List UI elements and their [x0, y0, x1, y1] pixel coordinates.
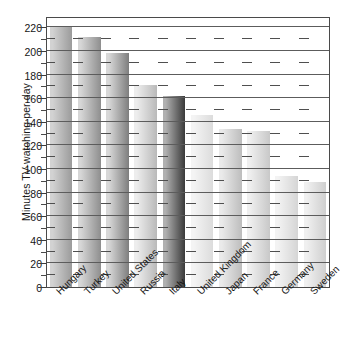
- y-tick-label: 120: [8, 141, 42, 151]
- gridline: [47, 121, 329, 122]
- y-axis-major-tick: [38, 216, 46, 217]
- minor-tick: [299, 62, 309, 63]
- minor-tick: [129, 227, 139, 228]
- minor-tick: [270, 251, 280, 252]
- minor-tick: [270, 85, 280, 86]
- minor-tick: [186, 85, 196, 86]
- minor-tick: [242, 38, 252, 39]
- bar-germany: [275, 176, 298, 287]
- minor-tick: [129, 180, 139, 181]
- y-axis-major-tick: [38, 122, 46, 123]
- minor-tick: [158, 85, 168, 86]
- minor-tick: [101, 133, 111, 134]
- minor-tick: [129, 62, 139, 63]
- y-tick-label: 60: [8, 212, 42, 222]
- minor-tick: [186, 156, 196, 157]
- minor-tick: [158, 227, 168, 228]
- minor-tick: [186, 109, 196, 110]
- minor-tick: [270, 227, 280, 228]
- minor-tick: [73, 109, 83, 110]
- minor-tick: [73, 203, 83, 204]
- y-axis-major-tick: [38, 287, 46, 288]
- minor-tick: [186, 133, 196, 134]
- y-axis-major-tick: [38, 169, 46, 170]
- minor-tick: [101, 85, 111, 86]
- minor-tick: [299, 38, 309, 39]
- minor-tick: [299, 133, 309, 134]
- minor-tick: [299, 180, 309, 181]
- y-tick-label: 40: [8, 236, 42, 246]
- minor-tick: [47, 156, 55, 157]
- minor-tick: [129, 251, 139, 252]
- minor-tick: [270, 133, 280, 134]
- gridline: [47, 97, 329, 98]
- minor-tick: [270, 156, 280, 157]
- minor-tick: [242, 203, 252, 204]
- minor-tick: [270, 203, 280, 204]
- y-tick-label: 0: [8, 283, 42, 293]
- y-axis-major-tick: [38, 193, 46, 194]
- y-axis-tick-labels: 020406080100120140160180200220: [2, 17, 42, 288]
- y-tick-label: 200: [8, 47, 42, 57]
- minor-tick: [214, 133, 224, 134]
- minor-tick: [214, 251, 224, 252]
- gridline: [47, 239, 329, 240]
- minor-tick: [270, 38, 280, 39]
- y-tick-label: 180: [8, 71, 42, 81]
- y-axis-major-tick: [38, 51, 46, 52]
- minor-tick: [214, 38, 224, 39]
- minor-tick: [101, 251, 111, 252]
- minor-tick: [242, 156, 252, 157]
- minor-tick: [299, 227, 309, 228]
- gridline: [47, 192, 329, 193]
- minor-tick: [186, 274, 196, 275]
- minor-tick: [129, 38, 139, 39]
- minor-tick: [158, 180, 168, 181]
- y-axis-major-tick: [38, 98, 46, 99]
- minor-tick: [73, 156, 83, 157]
- minor-tick: [186, 62, 196, 63]
- minor-tick: [73, 227, 83, 228]
- minor-tick: [158, 109, 168, 110]
- minor-tick: [73, 85, 83, 86]
- y-tick-label: 100: [8, 165, 42, 175]
- minor-tick: [186, 251, 196, 252]
- minor-tick: [214, 156, 224, 157]
- minor-tick: [299, 156, 309, 157]
- minor-tick: [73, 62, 83, 63]
- minor-tick: [214, 62, 224, 63]
- minor-tick: [270, 109, 280, 110]
- minor-tick: [47, 109, 55, 110]
- minor-tick: [47, 85, 55, 86]
- minor-tick: [129, 203, 139, 204]
- minor-tick: [101, 203, 111, 204]
- minor-tick: [158, 133, 168, 134]
- y-axis-major-tick: [38, 27, 46, 28]
- minor-tick: [47, 38, 55, 39]
- y-tick-label: 140: [8, 118, 42, 128]
- y-tick-label: 160: [8, 94, 42, 104]
- minor-tick: [73, 251, 83, 252]
- minor-tick: [242, 180, 252, 181]
- minor-tick: [214, 227, 224, 228]
- minor-tick: [214, 180, 224, 181]
- minor-tick: [47, 180, 55, 181]
- y-axis-major-tick: [38, 240, 46, 241]
- minor-tick: [47, 251, 55, 252]
- y-tick-label: 80: [8, 189, 42, 199]
- minor-tick: [129, 109, 139, 110]
- x-axis-tick-labels: HungaryTurkeyUnited StatesRussiaItalyUni…: [46, 289, 330, 349]
- minor-tick: [73, 133, 83, 134]
- minor-tick: [158, 203, 168, 204]
- minor-tick: [101, 227, 111, 228]
- plot-area: [46, 17, 330, 288]
- y-axis-major-tick: [38, 263, 46, 264]
- minor-tick: [73, 180, 83, 181]
- gridline: [47, 26, 329, 27]
- minor-tick: [242, 109, 252, 110]
- minor-tick: [47, 62, 55, 63]
- minor-tick: [242, 85, 252, 86]
- gridline: [47, 50, 329, 51]
- gridline: [47, 74, 329, 75]
